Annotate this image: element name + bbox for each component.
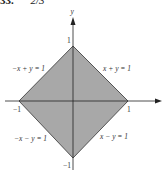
equation-upper-right: x + y = 1 [102, 64, 131, 73]
tick-y-pos: 1 [67, 36, 71, 45]
y-axis-arrow-icon [71, 17, 76, 25]
equation-lower-right: x − y = 1 [99, 132, 128, 141]
equation-lower-left: −x − y = 1 [14, 134, 47, 143]
diamond-region-diagram: y 1 −1 −1 1 −x + y = 1 x + y = 1 −x − y … [0, 0, 164, 175]
tick-y-neg: −1 [63, 161, 71, 170]
y-axis-label: y [70, 7, 75, 16]
equation-upper-left: −x + y = 1 [12, 64, 45, 73]
tick-x-pos: 1 [127, 105, 131, 114]
x-axis-arrow-icon [155, 99, 162, 104]
tick-x-neg: −1 [13, 105, 21, 114]
